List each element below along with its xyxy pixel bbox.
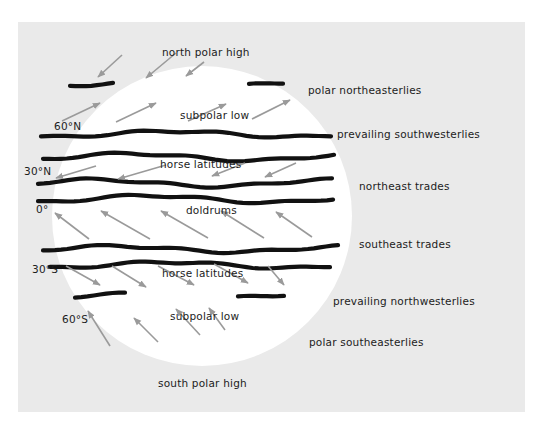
zone-label-subpolar-low-south: subpolar low — [170, 310, 239, 322]
wind-label-southeast-trades: southeast trades — [359, 238, 451, 250]
wind-label-polar-northeasterlies: polar northeasterlies — [308, 84, 422, 96]
zone-label-subpolar-low-north: subpolar low — [180, 109, 249, 121]
circulation-diagram: 60°N 30°N 0° 30°S 60°S north polar high … — [18, 22, 525, 412]
belt-60n-west — [70, 83, 113, 86]
diagram-panel: 60°N 30°N 0° 30°S 60°S north polar high … — [18, 22, 525, 412]
latitude-label-30n: 30°N — [24, 165, 51, 177]
belt-60n-east — [249, 83, 283, 84]
wind-label-prevailing-northwesterlies: prevailing northwesterlies — [333, 295, 475, 307]
wind-label-polar-southeasterlies: polar southeasterlies — [309, 336, 424, 348]
latitude-label-60s: 60°S — [62, 313, 88, 325]
wind-label-prevailing-southwesterlies: prevailing southwesterlies — [337, 128, 480, 140]
zone-label-horse-latitudes-north: horse latitudes — [160, 158, 241, 170]
zone-label-doldrums: doldrums — [186, 204, 237, 216]
zone-label-north-polar-high: north polar high — [162, 46, 250, 58]
wind-label-northeast-trades: northeast trades — [359, 180, 450, 192]
latitude-label-equator: 0° — [36, 203, 48, 215]
zone-label-horse-latitudes-south: horse latitudes — [162, 267, 243, 279]
belt-60s-east — [238, 296, 284, 297]
arrow-polar-ne-1 — [98, 55, 122, 77]
latitude-label-60n: 60°N — [54, 120, 81, 132]
zone-label-south-polar-high: south polar high — [158, 377, 247, 389]
latitude-label-30s: 30°S — [32, 263, 58, 275]
